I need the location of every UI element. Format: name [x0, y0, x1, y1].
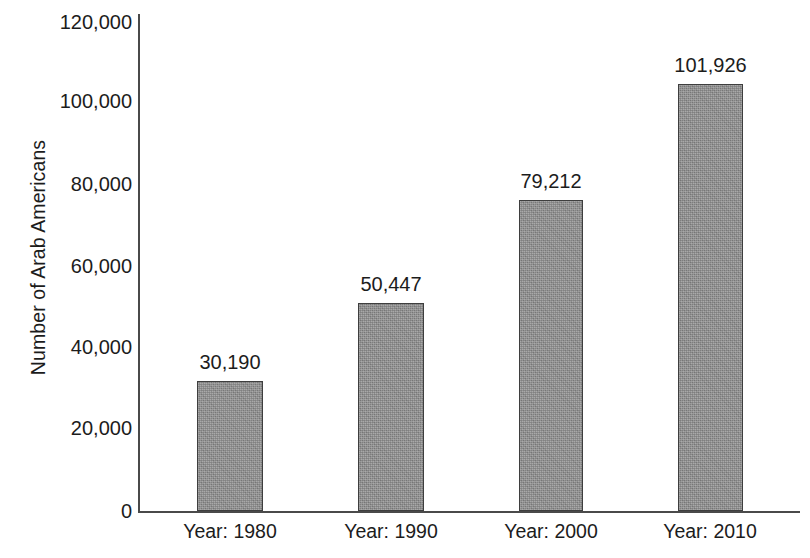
bar-value-label: 50,447: [301, 274, 481, 294]
bar-value-label: 101,926: [621, 55, 801, 75]
bar: [678, 84, 743, 511]
plot-area: 30,190Year: 198050,447Year: 199079,212Ye…: [0, 0, 810, 558]
bar: [519, 200, 583, 511]
bar-value-label: 30,190: [140, 352, 320, 372]
bar-value-label: 79,212: [461, 171, 641, 191]
x-axis-tick-label: Year: 1980: [140, 520, 320, 542]
x-axis-tick-label: Year: 2000: [461, 520, 641, 542]
bar: [358, 303, 424, 511]
bar: [197, 381, 263, 511]
x-axis-tick-label: Year: 1990: [301, 520, 481, 542]
bar-chart: Number of Arab Americans 020,00040,00060…: [0, 0, 810, 558]
x-axis-tick-label: Year: 2010: [620, 520, 800, 542]
